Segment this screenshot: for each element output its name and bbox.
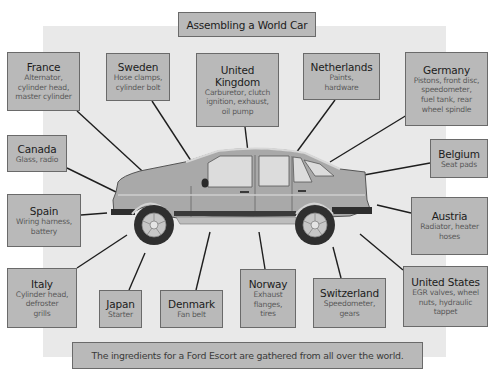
country-box-switzerland: Switzerland Speedometer, gears	[313, 278, 386, 328]
diagram-title: Assembling a World Car	[178, 12, 316, 37]
country-box-austria: Austria Radiator, heater hoses	[411, 197, 488, 255]
diagram-caption: The ingredients for a Ford Escort are ga…	[72, 342, 423, 369]
country-name-line: United	[221, 64, 254, 76]
parts-line: EGR valves, wheel	[412, 288, 479, 298]
connector-germany	[330, 115, 407, 162]
parts-line: flanges,	[254, 300, 283, 310]
parts-line: tappet	[434, 307, 458, 317]
parts-line: wheel spindle	[422, 105, 472, 115]
country-name: United States	[411, 276, 480, 288]
parts-line: gears	[339, 309, 359, 319]
parts-line: nuts, hydraulic	[419, 298, 473, 308]
country-box-norway: Norway Exhaust flanges, tires	[240, 269, 296, 328]
country-box-canada: Canada Glass, radio	[7, 135, 67, 172]
car-illustration	[111, 148, 372, 245]
parts-line: hardware	[324, 83, 358, 93]
country-name: Germany	[423, 64, 470, 76]
parts-line: tires	[260, 309, 276, 319]
country-name: Sweden	[118, 61, 158, 73]
parts-line: Glass, radio	[16, 155, 58, 165]
parts-line: Wiring harness,	[16, 217, 72, 227]
parts-line: Hose clamps,	[114, 73, 163, 83]
connector-italy	[77, 235, 127, 268]
country-name: Netherlands	[311, 61, 373, 73]
parts-line: grills	[33, 309, 50, 319]
parts-line: fuel tank, rear	[421, 95, 472, 105]
country-box-germany: Germany Pistons, front disc, speedometer…	[405, 52, 488, 126]
parts-line: cylinder bolt	[116, 83, 161, 93]
country-name: Japan	[106, 298, 134, 310]
parts-line: Carburetor, clutch	[205, 88, 270, 98]
connector-austria	[377, 205, 411, 213]
parts-line: battery	[31, 227, 57, 237]
country-name: Italy	[31, 278, 53, 290]
parts-line: hoses	[439, 232, 460, 242]
parts-line: master cylinder	[15, 92, 72, 102]
country-name: Belgium	[438, 148, 480, 160]
front-wheel	[134, 205, 174, 245]
parts-line: oil pump	[222, 107, 254, 117]
country-box-denmark: Denmark Fan belt	[160, 290, 223, 328]
parts-line: Pistons, front disc,	[414, 76, 480, 86]
connector-japan	[129, 253, 145, 290]
connector-spain	[81, 213, 107, 215]
parts-line: defroster	[26, 299, 59, 309]
country-box-italy: Italy Cylinder head, defroster grills	[7, 268, 77, 328]
connector-denmark	[196, 232, 210, 290]
connector-canada	[67, 168, 116, 192]
parts-line: Cylinder head,	[16, 290, 68, 300]
parts-line: speedometer,	[421, 85, 471, 95]
country-box-netherlands: Netherlands Paints, hardware	[303, 53, 380, 100]
country-box-sweden: Sweden Hose clamps, cylinder bolt	[106, 53, 170, 101]
country-box-united-states: United States EGR valves, wheel nuts, hy…	[403, 266, 488, 327]
country-name: Spain	[30, 205, 58, 217]
parts-line: Paints,	[330, 73, 354, 83]
parts-line: Speedometer,	[324, 299, 375, 309]
parts-line: Fan belt	[177, 310, 206, 320]
parts-line: cylinder head,	[18, 83, 69, 93]
country-box-united-kingdom: United Kingdom Carburetor, clutch igniti…	[196, 53, 279, 127]
connector-united-states	[360, 234, 403, 270]
country-name-line: Kingdom	[215, 76, 260, 88]
country-box-japan: Japan Starter	[99, 290, 142, 328]
parts-line: Radiator, heater	[420, 222, 479, 232]
country-name: Denmark	[168, 298, 215, 310]
parts-line: ignition, exhaust,	[206, 97, 268, 107]
parts-line: Exhaust	[253, 290, 282, 300]
country-name: France	[27, 61, 61, 73]
rear-wheel	[295, 205, 335, 245]
connector-netherlands	[296, 100, 335, 153]
parts-line: Starter	[108, 310, 133, 320]
country-name: Switzerland	[320, 287, 379, 299]
country-box-belgium: Belgium Seat pads	[430, 139, 488, 178]
country-box-france: France Alternator, cylinder head, master…	[7, 52, 80, 111]
connector-switzerland	[333, 247, 341, 278]
connector-norway	[259, 232, 265, 269]
parts-line: Seat pads	[441, 160, 477, 170]
country-name: Canada	[18, 143, 57, 155]
parts-line: Alternator,	[24, 73, 62, 83]
country-name: Austria	[432, 210, 468, 222]
country-box-spain: Spain Wiring harness, battery	[7, 194, 81, 247]
country-name: Norway	[249, 278, 288, 290]
